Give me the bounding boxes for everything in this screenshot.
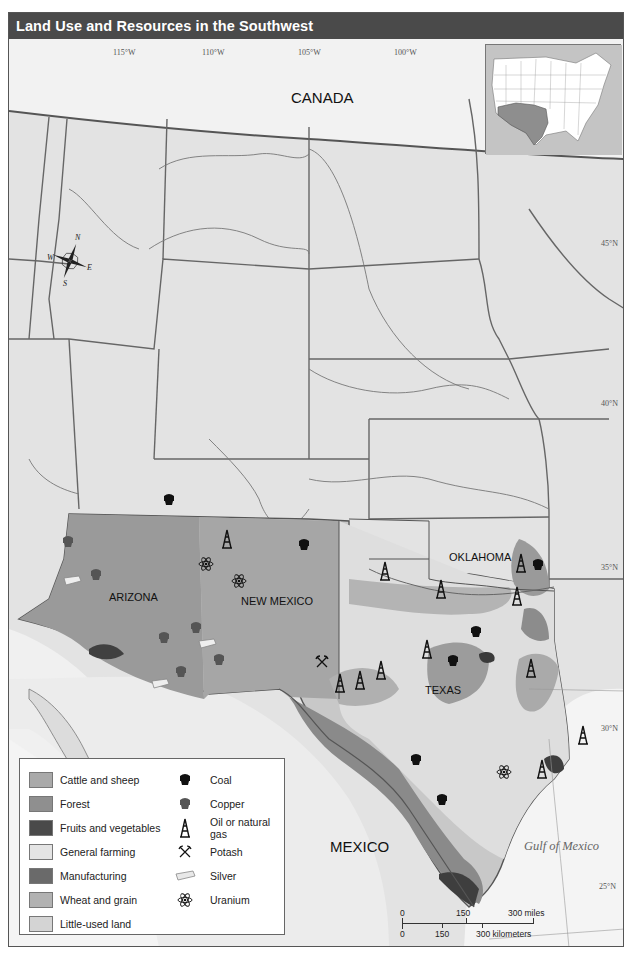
label-oklahoma: OKLAHOMA: [449, 551, 511, 563]
legend-label: Silver: [210, 870, 236, 882]
scale-miles-0: 0: [400, 908, 405, 918]
legend-label: Wheat and grain: [60, 894, 137, 906]
label-texas: TEXAS: [425, 684, 461, 696]
legend-item-cattle-and-sheep: Cattle and sheep: [29, 768, 160, 792]
silver-bar-icon: [149, 678, 171, 690]
uranium-icon: [173, 890, 197, 910]
scale-km-300: 300 kilometers: [476, 929, 531, 939]
label-new-mexico: NEW MEXICO: [241, 595, 313, 607]
compass-e: E: [87, 263, 92, 272]
compass-n: N: [75, 233, 80, 242]
copper-icon: [189, 621, 203, 635]
oil-derrick-icon: [536, 759, 548, 779]
scale-bar: 0 150 300 miles 0 150 300 kilometers: [402, 906, 542, 946]
swatch-wheat-and-grain: [29, 892, 53, 908]
label-arizona: ARIZONA: [109, 591, 158, 603]
uranium-icon: [496, 764, 512, 780]
legend-item-copper: Copper: [173, 792, 284, 816]
map-legend: Cattle and sheep Forest Fruits and veget…: [19, 758, 285, 935]
legend-resources: Coal Copper Oil or natural gas Potash Si…: [173, 768, 284, 912]
legend-item-wheat-and-grain: Wheat and grain: [29, 888, 160, 912]
oil-derrick-icon: [379, 561, 391, 581]
legend-land-use: Cattle and sheep Forest Fruits and veget…: [29, 768, 160, 936]
coal-icon: [446, 654, 460, 668]
legend-item-potash: Potash: [173, 840, 284, 864]
compass-rose-icon: N S E W: [45, 233, 95, 289]
copper-icon: [173, 794, 197, 814]
coal-icon: [409, 753, 423, 767]
swatch-little-used-land: [29, 916, 53, 932]
swatch-general-farming: [29, 844, 53, 860]
legend-item-coal: Coal: [173, 768, 284, 792]
legend-label: Fruits and vegetables: [60, 822, 160, 834]
scale-km-150: 150: [435, 929, 449, 939]
copper-icon: [157, 631, 171, 645]
latitude-label: 45°N: [601, 239, 618, 248]
legend-label: Oil or natural gas: [210, 816, 284, 840]
oil-derrick-icon: [515, 553, 527, 573]
legend-item-oil-or-natural-gas: Oil or natural gas: [173, 816, 284, 840]
latitude-label: 30°N: [601, 724, 618, 733]
legend-label: Copper: [210, 798, 244, 810]
silver-bar-icon: [196, 638, 218, 650]
oil-derrick-icon: [435, 579, 447, 599]
copper-icon: [61, 535, 75, 549]
legend-label: General farming: [60, 846, 135, 858]
swatch-fruits-and-vegetables: [29, 820, 53, 836]
copper-icon: [212, 653, 226, 667]
longitude-label: 100°W: [394, 48, 417, 57]
latitude-label: 25°N: [599, 882, 616, 891]
legend-label: Uranium: [210, 894, 250, 906]
compass-w: W: [47, 253, 54, 262]
scale-miles-300: 300 miles: [508, 908, 544, 918]
legend-item-forest: Forest: [29, 792, 160, 816]
uranium-icon: [198, 556, 214, 572]
legend-item-general-farming: General farming: [29, 840, 160, 864]
legend-label: Coal: [210, 774, 232, 786]
coal-icon: [297, 538, 311, 552]
coal-icon: [531, 558, 545, 572]
potash-icon: [315, 655, 329, 669]
swatch-forest: [29, 796, 53, 812]
swatch-cattle-and-sheep: [29, 772, 53, 788]
legend-label: Potash: [210, 846, 243, 858]
label-mexico: MEXICO: [330, 838, 389, 855]
scale-miles-150: 150: [456, 908, 470, 918]
oil-derrick-icon: [421, 639, 433, 659]
oil-derrick-icon: [221, 529, 233, 549]
latitude-label: 35°N: [601, 563, 618, 572]
coal-icon: [435, 793, 449, 807]
oil-derrick-icon: [525, 658, 537, 678]
oil-derrick-icon: [334, 673, 346, 693]
legend-item-fruits-and-vegetables: Fruits and vegetables: [29, 816, 160, 840]
oil-derrick-icon: [577, 725, 589, 745]
longitude-label: 115°W: [113, 48, 135, 57]
coal-icon: [162, 493, 176, 507]
legend-item-uranium: Uranium: [173, 888, 284, 912]
copper-icon: [174, 665, 188, 679]
scale-km-0: 0: [400, 929, 405, 939]
map-frame: Land Use and Resources in the Southwest: [8, 12, 624, 947]
swatch-manufacturing: [29, 868, 53, 884]
longitude-label: 105°W: [298, 48, 321, 57]
inset-locator-map: [485, 44, 621, 154]
oil-derrick-icon: [354, 670, 366, 690]
legend-label: Manufacturing: [60, 870, 127, 882]
compass-s: S: [63, 279, 67, 288]
label-gulf-of-mexico: Gulf of Mexico: [524, 839, 599, 854]
longitude-label: 110°W: [202, 48, 224, 57]
coal-icon: [469, 625, 483, 639]
label-canada: CANADA: [291, 89, 354, 106]
legend-label: Little-used land: [60, 918, 131, 930]
coal-icon: [173, 770, 197, 790]
latitude-label: 40°N: [601, 399, 618, 408]
copper-icon: [89, 568, 103, 582]
oil-derrick-icon: [173, 818, 197, 838]
legend-item-silver: Silver: [173, 864, 284, 888]
legend-label: Forest: [60, 798, 90, 810]
legend-label: Cattle and sheep: [60, 774, 139, 786]
oil-derrick-icon: [375, 660, 387, 680]
silver-bar-icon: [173, 866, 197, 886]
legend-item-little-used-land: Little-used land: [29, 912, 160, 936]
oil-derrick-icon: [511, 586, 523, 606]
